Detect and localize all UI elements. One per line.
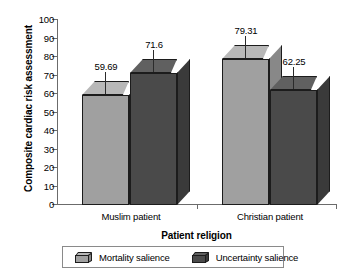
data-label-leader-line [293,67,294,89]
legend-label-uncertainty-salience: Uncertainty salience [216,252,299,263]
y-tick-label-10: 10 [14,182,54,192]
legend-item-mortality-salience: Mortality salience [75,252,170,263]
data-label-mortality-muslim: 59.69 [80,61,132,72]
data-label-uncertainty-christian: 62.25 [268,56,320,67]
x-tick-separator [197,204,198,209]
bar-uncertainty-muslim [130,59,190,205]
x-category-label-christian: Christian patient [205,211,335,222]
bar-uncertainty-christian [270,76,330,205]
y-tick-label-30: 30 [14,145,54,155]
y-tick-label-70: 70 [14,71,54,81]
y-tick-label-90: 90 [14,34,54,44]
chart-legend: Mortality salience Uncertainty salience [62,246,284,268]
data-label-leader-line [245,36,246,58]
bar-side-face [177,59,190,205]
dark-gray-swatch-icon [192,252,209,263]
bar-front-face [82,95,129,205]
data-label-mortality-christian: 79.31 [220,25,272,36]
y-tick-label-60: 60 [14,89,54,99]
data-label-leader-line [153,50,154,72]
y-tick-label-40: 40 [14,126,54,136]
legend-label-mortality-salience: Mortality salience [99,252,170,263]
y-tick-label-100: 100 [14,15,54,25]
legend-item-uncertainty-salience: Uncertainty salience [192,252,299,263]
x-category-label-muslim: Muslim patient [66,211,196,222]
data-label-leader-line [105,72,106,94]
data-label-uncertainty-muslim: 71.6 [130,39,178,50]
bar-chart: Composite cardiac risk assessment 100 90… [0,0,346,276]
y-axis-line [57,19,58,205]
bar-front-face [270,90,317,205]
x-tick-end [336,204,337,209]
y-tick-label-50: 50 [14,108,54,118]
bar-front-face [130,73,177,205]
bar-front-face [222,59,269,205]
y-tick-label-20: 20 [14,163,54,173]
light-gray-swatch-icon [75,252,92,263]
y-tick-label-80: 80 [14,52,54,62]
x-axis-title: Patient religion [57,230,336,241]
y-tick-label-0: 0 [14,200,54,210]
bar-side-face [317,76,330,205]
